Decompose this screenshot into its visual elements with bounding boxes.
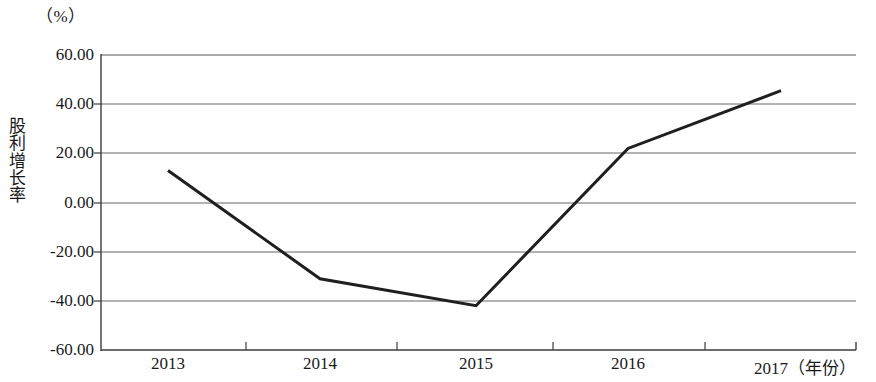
- x-tick-label-2015: 2015: [459, 354, 493, 374]
- x-tick-label-2014: 2014: [303, 354, 337, 374]
- x-tick-label-2013: 2013: [151, 354, 185, 374]
- x-tick-label-2016: 2016: [611, 354, 645, 374]
- x-tick-label-2017: 2017（年份）: [754, 354, 856, 379]
- dividend-growth-rate-line-chart: （%） 股利增长率 60.00 40.00 20.00 0.00 -20.00 …: [0, 0, 876, 382]
- y-tick-mark-group: [94, 104, 101, 301]
- x-tick-mark-group: [246, 342, 705, 350]
- plot-area: [0, 0, 876, 382]
- dividend-growth-rate-series-line: [168, 91, 781, 306]
- x-axis-tick-label-group: 2013 2014 2015 2016 2017（年份）: [0, 354, 876, 382]
- gridline-group: [101, 55, 856, 301]
